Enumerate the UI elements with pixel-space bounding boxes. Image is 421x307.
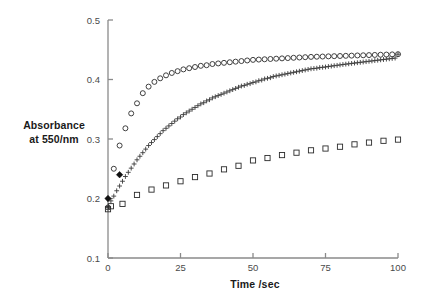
marker-circle <box>222 60 227 65</box>
marker-plus <box>248 81 253 86</box>
marker-plus <box>149 140 154 145</box>
marker-circle <box>181 67 186 72</box>
marker-circle <box>349 53 354 58</box>
marker-circle <box>251 57 256 62</box>
marker-circle <box>129 111 134 116</box>
marker-circle <box>140 91 145 96</box>
marker-plus <box>294 69 299 74</box>
marker-plus <box>126 170 131 175</box>
series-open-squares <box>105 137 400 212</box>
marker-circle <box>285 56 290 61</box>
marker-circle <box>378 52 383 57</box>
marker-square <box>236 163 241 168</box>
series-plus-crosses <box>106 52 401 210</box>
marker-circle <box>117 143 122 148</box>
y-tick-label: 0.5 <box>87 15 100 26</box>
marker-square <box>323 146 328 151</box>
marker-circle <box>320 54 325 59</box>
y-axis-title: Absorbance at 550/nm <box>8 118 100 146</box>
marker-circle <box>256 57 261 62</box>
marker-plus <box>306 67 311 72</box>
marker-square <box>366 140 371 145</box>
marker-plus <box>256 78 261 83</box>
marker-plus <box>314 66 319 71</box>
marker-plus <box>161 128 166 133</box>
plot-area: 0.10.20.30.40.50255075100 <box>0 0 421 307</box>
marker-plus <box>239 84 244 89</box>
marker-circle <box>198 63 203 68</box>
marker-circle <box>384 52 389 57</box>
y-axis-title-line2: at 550/nm <box>8 132 100 146</box>
marker-square <box>221 167 226 172</box>
marker-circle <box>361 53 366 58</box>
marker-circle <box>158 76 163 81</box>
marker-plus <box>143 147 148 152</box>
marker-plus <box>274 74 279 79</box>
marker-circle <box>309 54 314 59</box>
marker-plus <box>155 134 160 139</box>
marker-circle <box>314 54 319 59</box>
marker-plus <box>146 143 151 148</box>
marker-plus <box>285 71 290 76</box>
marker-plus <box>216 93 221 98</box>
x-tick-label: 0 <box>105 262 110 273</box>
marker-circle <box>187 66 192 71</box>
marker-circle <box>210 62 215 67</box>
marker-square <box>352 142 357 147</box>
marker-plus <box>167 124 172 129</box>
marker-plus <box>236 85 241 90</box>
marker-plus <box>172 119 177 124</box>
marker-circle <box>367 53 372 58</box>
marker-circle <box>233 59 238 64</box>
marker-circle <box>146 84 151 89</box>
marker-plus <box>164 126 169 131</box>
marker-plus <box>132 162 137 167</box>
marker-square <box>163 183 168 188</box>
marker-plus <box>111 194 116 199</box>
marker-circle <box>291 55 296 60</box>
marker-plus <box>259 78 264 83</box>
y-tick-label: 0.4 <box>87 74 100 85</box>
marker-circle <box>227 60 232 65</box>
marker-plus <box>120 179 125 184</box>
marker-square <box>279 152 284 157</box>
marker-plus <box>213 94 218 99</box>
marker-plus <box>158 131 163 136</box>
marker-circle <box>175 69 180 74</box>
marker-square <box>207 171 212 176</box>
marker-square <box>149 187 154 192</box>
marker-plus <box>300 68 305 73</box>
marker-circle <box>303 55 308 60</box>
marker-plus <box>227 88 232 93</box>
marker-square <box>294 150 299 155</box>
marker-square <box>250 158 255 163</box>
marker-plus <box>262 77 267 82</box>
marker-square <box>192 174 197 179</box>
marker-circle <box>152 79 157 84</box>
marker-plus <box>230 87 235 92</box>
marker-circle <box>332 54 337 59</box>
marker-plus <box>138 154 143 159</box>
marker-plus <box>114 188 119 193</box>
y-tick-label: 0.1 <box>87 253 100 264</box>
chart-figure: Absorbance at 550/nm Time /sec 0.10.20.3… <box>0 0 421 307</box>
x-axis-title: Time /sec <box>150 278 360 290</box>
marker-circle <box>135 101 140 106</box>
marker-plus <box>169 121 174 126</box>
marker-plus <box>245 82 250 87</box>
marker-diamond <box>116 172 122 178</box>
x-tick-label: 50 <box>248 262 259 273</box>
marker-plus <box>297 69 302 74</box>
marker-plus <box>288 71 293 76</box>
marker-square <box>134 192 139 197</box>
marker-circle <box>297 55 302 60</box>
marker-plus <box>265 76 270 81</box>
x-tick-label: 25 <box>175 262 186 273</box>
marker-square <box>381 138 386 143</box>
x-tick-label: 75 <box>320 262 331 273</box>
data-series <box>105 52 401 212</box>
marker-plus <box>280 72 285 77</box>
marker-circle <box>280 56 285 61</box>
marker-plus <box>152 137 157 142</box>
marker-square <box>337 144 342 149</box>
